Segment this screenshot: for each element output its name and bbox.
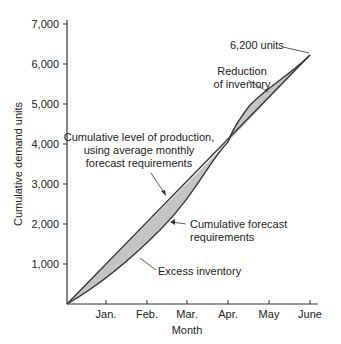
y-tick-labels: 1,000 2,000 3,000 4,000 5,000 6,000 7,00… <box>31 18 59 270</box>
annotation-production-line2: using average monthly <box>84 144 195 156</box>
x-tick-labels: Jan. Feb. Mar. Apr. May June <box>96 308 322 320</box>
annotation-units: 6,200 units <box>230 39 284 51</box>
annotation-production-line1: Cumulative level of production, <box>64 131 214 143</box>
annotation-forecast-line2: requirements <box>190 231 255 243</box>
x-tick-label: Mar. <box>176 308 197 320</box>
y-tick-label: 3,000 <box>31 178 59 190</box>
y-tick-label: 6,000 <box>31 58 59 70</box>
x-tick-label: May <box>259 308 280 320</box>
x-tick-label: Apr. <box>218 308 238 320</box>
cumulative-demand-chart: 1,000 2,000 3,000 4,000 5,000 6,000 7,00… <box>0 0 341 344</box>
x-axis-title: Month <box>172 324 203 336</box>
y-tick-label: 7,000 <box>31 18 59 30</box>
y-axis-title: Cumulative demand units <box>12 101 24 226</box>
annotation-reduction-line1: Reduction <box>217 65 267 77</box>
y-tick-label: 4,000 <box>31 138 59 150</box>
y-tick-label: 1,000 <box>31 258 59 270</box>
annotation-production-line3: forecast requirements <box>86 157 193 169</box>
annotation-forecast-line1: Cumulative forecast <box>190 218 287 230</box>
annotation-excess-inventory: Excess inventory <box>158 265 242 277</box>
x-tick-label: June <box>298 308 322 320</box>
y-tick-label: 5,000 <box>31 98 59 110</box>
y-tick-label: 2,000 <box>31 218 59 230</box>
x-tick-label: Jan. <box>96 308 117 320</box>
x-tick-label: Feb. <box>136 308 158 320</box>
annotations: 6,200 units Reduction of inventory Cumul… <box>64 39 309 277</box>
